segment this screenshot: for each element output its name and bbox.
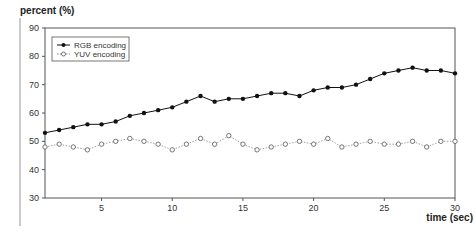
y-tick-label: 60 [29, 108, 39, 118]
y-tick-label: 50 [29, 136, 39, 146]
y-tick-label: 70 [29, 80, 39, 90]
data-point [340, 85, 344, 89]
data-point [396, 68, 400, 72]
data-point [198, 136, 202, 140]
y-tick-label: 30 [29, 193, 39, 203]
y-tick-label: 80 [29, 51, 39, 61]
data-point [255, 148, 259, 152]
data-point [184, 142, 188, 146]
data-point [85, 122, 89, 126]
data-point [184, 99, 188, 103]
x-tick-label: 10 [167, 203, 177, 213]
data-point [142, 111, 146, 115]
legend-label-rgb: RGB encoding [74, 41, 126, 50]
data-point [85, 148, 89, 152]
data-point [57, 142, 61, 146]
data-point [227, 97, 231, 101]
data-point [297, 94, 301, 98]
data-point [128, 136, 132, 140]
data-point [71, 145, 75, 149]
data-point [227, 133, 231, 137]
legend-label-yuv: YUV encoding [74, 50, 125, 59]
data-point [410, 65, 414, 69]
data-point [326, 136, 330, 140]
data-point [113, 139, 117, 143]
data-point [212, 142, 216, 146]
data-point [297, 139, 301, 143]
data-point [156, 142, 160, 146]
data-point [340, 145, 344, 149]
data-point [439, 68, 443, 72]
data-point [410, 139, 414, 143]
data-point [43, 131, 47, 135]
data-point [99, 142, 103, 146]
data-point [142, 139, 146, 143]
data-point [170, 105, 174, 109]
data-point [311, 142, 315, 146]
data-point [311, 88, 315, 92]
data-point [113, 119, 117, 123]
x-tick-label: 5 [99, 203, 104, 213]
y-tick-label: 40 [29, 165, 39, 175]
data-point [99, 122, 103, 126]
data-point [170, 148, 174, 152]
data-point [269, 145, 273, 149]
x-axis-label: time (sec) [426, 212, 473, 223]
data-point [128, 114, 132, 118]
data-point [212, 99, 216, 103]
data-point [396, 142, 400, 146]
line-chart: percent (%) 30405060708090 51015202530 t… [0, 0, 476, 236]
data-point [382, 71, 386, 75]
data-point [43, 145, 47, 149]
data-point [156, 108, 160, 112]
y-tick-label: 90 [29, 23, 39, 33]
y-axis-ticks: 30405060708090 [29, 23, 45, 203]
data-point [354, 82, 358, 86]
data-point [439, 139, 443, 143]
data-point [453, 71, 457, 75]
legend: RGB encoding YUV encoding [52, 37, 129, 61]
x-tick-label: 15 [238, 203, 248, 213]
x-tick-label: 25 [379, 203, 389, 213]
x-tick-label: 20 [309, 203, 319, 213]
data-point [57, 128, 61, 132]
open-circle-marker-icon [62, 52, 66, 56]
filled-circle-marker-icon [62, 43, 66, 47]
data-point [241, 97, 245, 101]
data-point [255, 94, 259, 98]
data-point [425, 145, 429, 149]
data-point [368, 139, 372, 143]
data-point [71, 125, 75, 129]
data-point [368, 77, 372, 81]
data-point [425, 68, 429, 72]
x-axis-ticks: 51015202530 [99, 198, 460, 213]
data-point [326, 85, 330, 89]
y-axis-label: percent (%) [20, 5, 74, 16]
data-point [269, 91, 273, 95]
data-point [453, 139, 457, 143]
data-point [283, 91, 287, 95]
data-point [382, 142, 386, 146]
data-point [283, 142, 287, 146]
data-point [198, 94, 202, 98]
data-point [241, 142, 245, 146]
data-point [354, 142, 358, 146]
